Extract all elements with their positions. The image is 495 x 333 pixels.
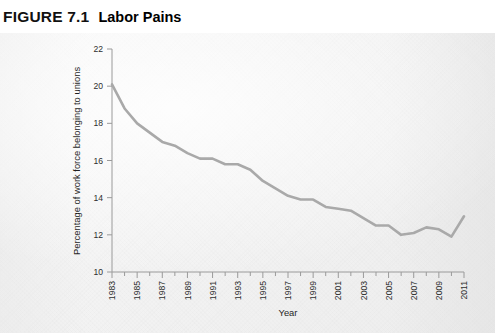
x-tick-label: 1995 <box>258 281 268 300</box>
x-axis-title: Year <box>279 307 298 318</box>
x-tick-label: 1997 <box>283 281 293 300</box>
x-tick-label: 1989 <box>183 281 193 300</box>
y-tick-label: 12 <box>93 230 103 240</box>
x-tick-label: 1987 <box>157 281 167 300</box>
x-tick-label: 1991 <box>208 281 218 300</box>
y-tick-label: 14 <box>93 193 103 203</box>
x-tick-label: 2001 <box>333 281 343 300</box>
x-axis-tick-labels: 1983198519871989199119931995199719992001… <box>107 281 469 300</box>
x-tick-label: 2009 <box>434 281 444 300</box>
figure-header: FIGURE 7.1 Labor Pains <box>0 0 495 33</box>
x-tick-label: 2011 <box>459 281 469 300</box>
figure-title: Labor Pains <box>98 9 181 25</box>
y-axis-ticks: 10121416182022 <box>93 44 112 277</box>
y-tick-label: 10 <box>93 267 103 277</box>
union-membership-line <box>112 84 464 236</box>
x-tick-label: 1983 <box>107 281 117 300</box>
x-tick-label: 1985 <box>132 281 142 300</box>
x-tick-label: 2005 <box>384 281 394 300</box>
y-tick-label: 18 <box>93 118 103 128</box>
figure-panel: 10121416182022 1983198519871989199119931… <box>0 33 495 333</box>
y-tick-label: 16 <box>93 156 103 166</box>
x-axis-minor-ticks <box>112 272 464 278</box>
y-tick-label: 22 <box>93 44 103 54</box>
figure-number: FIGURE 7.1 <box>3 8 89 26</box>
x-tick-label: 2007 <box>409 281 419 300</box>
x-tick-label: 1999 <box>308 281 318 300</box>
x-tick-label: 2003 <box>359 281 369 300</box>
y-tick-label: 20 <box>93 81 103 91</box>
line-chart: 10121416182022 1983198519871989199119931… <box>0 33 495 333</box>
x-tick-label: 1993 <box>233 281 243 300</box>
y-axis-title: Percentage of work force belonging to un… <box>71 67 82 255</box>
